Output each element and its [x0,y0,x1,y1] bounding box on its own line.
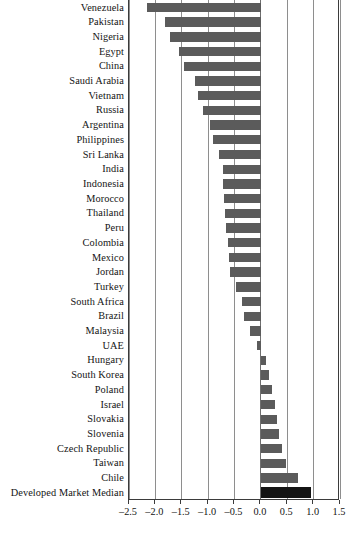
bar-row [129,339,338,353]
category-label: Slovakia [87,413,124,424]
bar-row [129,1,338,15]
category-label: Taiwan [93,457,124,468]
x-axis-tick [180,500,181,504]
bar [230,267,261,276]
bar-row [129,427,338,441]
x-axis-tick [207,500,208,504]
bar [244,312,261,321]
category-label: Russia [96,104,124,115]
category-label: Brazil [98,310,124,321]
category-label: Israel [101,399,124,410]
x-axis-tick-label: 0.5 [280,505,293,518]
category-label: Vietnam [88,90,124,101]
category-label: South Africa [70,296,124,307]
category-label: Peru [105,222,124,233]
bar [165,17,261,26]
category-label: Indonesia [83,178,124,189]
bar-row [129,251,338,265]
category-label: Mexico [92,252,124,263]
bar-row [129,148,338,162]
category-label: Nigeria [92,31,124,42]
bar-row [129,177,338,191]
bar-highlight [261,487,311,497]
x-axis-tick-label: –1.0 [198,505,216,518]
bar [226,223,261,232]
bar-row [129,15,338,29]
category-label: Venezuela [81,2,124,13]
bar-row [129,265,338,279]
x-axis-tick [259,500,260,504]
bar [250,326,261,335]
category-label: Pakistan [88,16,124,27]
bar [228,238,261,247]
bar-row [129,30,338,44]
x-axis-tick [312,500,313,504]
bar [261,400,275,409]
gridline [340,0,341,499]
bar-row [129,442,338,456]
bar [261,444,282,453]
bar [261,385,273,394]
bar-row [129,192,338,206]
category-label: China [99,60,124,71]
category-label: Argentina [82,119,124,130]
bar-row [129,412,338,426]
bar [195,76,261,85]
category-label: Poland [95,384,124,395]
plot-area [128,0,339,500]
bar-row [129,45,338,59]
category-label-column: VenezuelaPakistanNigeriaEgyptChinaSaudi … [0,0,128,500]
bar-row [129,456,338,470]
bar [203,106,261,115]
x-axis-tick [286,500,287,504]
bar [219,150,261,159]
x-axis-tick-label: 1.5 [333,505,346,518]
x-axis-tick-label: 1.0 [306,505,319,518]
bar [261,473,298,482]
category-label: India [102,163,124,174]
category-label: Philippines [77,134,124,145]
bar [210,120,261,129]
bar [261,356,266,365]
bar [261,370,269,379]
bar [170,32,261,41]
category-label: Saudi Arabia [69,75,124,86]
bar [225,209,261,218]
bar [198,91,261,100]
bar-row [129,295,338,309]
x-axis-tick-label: –2.0 [145,505,163,518]
category-label: Slovenia [87,428,124,439]
bar-row [129,486,338,500]
bar [261,415,277,424]
bar [184,62,260,71]
category-label: South Korea [71,369,124,380]
x-axis-tick [154,500,155,504]
bar-row [129,324,338,338]
bar [223,165,261,174]
bar [223,179,261,188]
category-label: Developed Market Median [11,487,124,498]
bar-row [129,133,338,147]
bar-chart: VenezuelaPakistanNigeriaEgyptChinaSaudi … [0,0,347,538]
x-axis-tick [128,500,129,504]
category-label: Morocco [86,193,124,204]
bar [224,194,261,203]
x-axis-tick-label: –1.5 [172,505,190,518]
bar-row [129,280,338,294]
bar-row [129,353,338,367]
bar [261,429,279,438]
category-label: Egypt [99,46,124,57]
category-label: Colombia [83,237,124,248]
x-axis-tick-labels: –2.5–2.0–1.5–1.0–0.50.00.51.01.5 [128,505,339,521]
bar-row [129,206,338,220]
bar [257,341,261,350]
bar [179,47,261,56]
bar [236,282,261,291]
category-label: Czech Republic [57,443,124,454]
bar-row [129,309,338,323]
bar [147,3,260,12]
bar-row [129,398,338,412]
bar-row [129,236,338,250]
bar-row [129,471,338,485]
bar-row [129,162,338,176]
